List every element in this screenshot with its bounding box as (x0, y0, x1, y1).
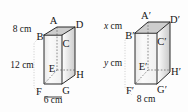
left-vertex-label-H: H (76, 69, 84, 80)
right-height-label: y cm (103, 58, 123, 68)
right-vertex-label-B: B′ (125, 30, 134, 41)
right-vertex-label-C: C′ (157, 36, 166, 47)
cuboids-diagram: A B C D E F G H 8 cm 12 cm 6 cm (0, 0, 188, 112)
right-vertex-label-F: F′ (126, 85, 134, 96)
left-front-face (44, 35, 62, 84)
right-depth-unit: cm (108, 21, 123, 31)
right-width-label: 8 cm (137, 94, 156, 104)
left-height-label: 12 cm (10, 60, 34, 70)
right-vertex-label-A: A′ (141, 10, 151, 21)
left-vertex-label-A: A (50, 15, 58, 26)
right-vertex-label-G: G′ (157, 84, 167, 95)
right-cuboid-group: A′ B′ C′ D′ E′ F′ G′ H′ x cm y cm 8 cm (103, 10, 181, 104)
left-depth-label: 8 cm (13, 24, 32, 34)
right-vertex-label-H: H′ (171, 66, 181, 77)
right-depth-label: x cm (103, 21, 123, 31)
left-vertex-label-D: D (76, 19, 84, 30)
left-vertex-label-E: E (49, 63, 55, 74)
right-vertex-label-D: D′ (170, 14, 180, 25)
left-vertex-label-C: C (62, 38, 69, 49)
right-vertex-label-E: E′ (139, 61, 148, 72)
left-cuboid-group: A B C D E F G H 8 cm 12 cm 6 cm (10, 15, 84, 105)
left-vertex-label-F: F (36, 86, 42, 97)
left-vertex-label-G: G (62, 85, 70, 96)
right-front-face (135, 33, 157, 84)
left-vertex-label-B: B (36, 31, 43, 42)
figure-container: A B C D E F G H 8 cm 12 cm 6 cm (0, 0, 188, 112)
left-width-label: 6 cm (44, 95, 63, 105)
right-height-unit: cm (108, 58, 123, 68)
left-side-face (62, 27, 75, 84)
